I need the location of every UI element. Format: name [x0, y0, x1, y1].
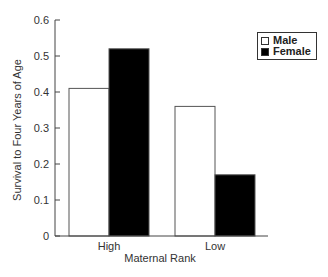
y-tick-label: 0.2	[34, 158, 49, 170]
x-tick-label: High	[98, 240, 121, 252]
y-tick-label: 0.4	[34, 86, 49, 98]
y-tick-label: 0	[43, 230, 49, 242]
y-axis-label: Survival to Four Years of Age	[11, 59, 23, 201]
bar-female-low	[215, 175, 255, 236]
x-axis-label: Maternal Rank	[124, 252, 196, 264]
legend: Male Female	[257, 32, 317, 60]
y-tick-label: 0.5	[34, 50, 49, 62]
y-tick-label: 0.1	[34, 194, 49, 206]
bar-female-high	[109, 49, 149, 236]
female-swatch	[261, 48, 269, 56]
male-swatch	[261, 37, 269, 45]
legend-item-female: Female	[261, 46, 313, 57]
bars	[69, 49, 255, 236]
x-tick-label: Low	[205, 240, 225, 252]
bar-male-high	[69, 88, 109, 236]
y-tick-label: 0.3	[34, 122, 49, 134]
legend-label: Female	[273, 46, 311, 57]
y-axis-ticks: 00.10.20.30.40.50.6	[34, 14, 60, 242]
bar-male-low	[175, 106, 215, 236]
y-tick-label: 0.6	[34, 14, 49, 26]
x-tick-labels: HighLow	[98, 240, 225, 252]
